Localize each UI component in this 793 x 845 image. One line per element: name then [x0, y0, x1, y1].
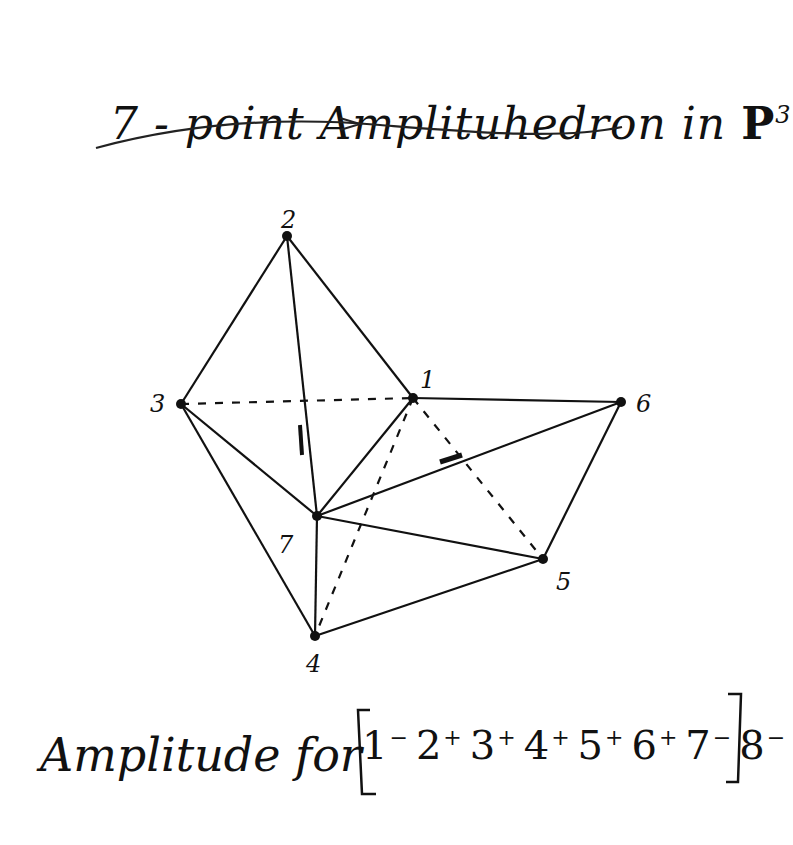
- projective-space-exponent: 3: [775, 101, 791, 129]
- vertex-4: [310, 631, 320, 641]
- particle-number: 8: [739, 722, 764, 768]
- edge-tick-mark: [440, 455, 462, 462]
- helicity-item: 6+: [631, 722, 677, 768]
- vertex-label-4: 4: [305, 650, 321, 678]
- particle-number: 3: [470, 722, 495, 768]
- edge-3-1: [181, 398, 413, 404]
- edge-4-5: [315, 559, 543, 636]
- helicity-item: 8−: [739, 722, 785, 768]
- particle-number: 4: [524, 722, 549, 768]
- helicity-sign: +: [551, 725, 569, 750]
- helicity-item: 7−: [685, 722, 731, 768]
- edge-3-4: [181, 404, 315, 636]
- edge-3-7: [181, 404, 317, 516]
- helicity-sign: −: [767, 725, 785, 750]
- vertex-label-2: 2: [280, 206, 296, 234]
- edge-mark-layer: [300, 425, 462, 462]
- particle-number: 5: [578, 722, 603, 768]
- edge-2-7: [287, 236, 317, 516]
- vertex-label-7: 7: [278, 531, 294, 559]
- helicity-item: 2+: [416, 722, 462, 768]
- vertex-label-1: 1: [420, 366, 435, 394]
- edge-1-5: [413, 398, 543, 559]
- helicity-sign: −: [389, 725, 407, 750]
- edge-7-4: [315, 516, 317, 636]
- helicity-list: 1−2+3+4+5+6+7−8−: [362, 722, 793, 768]
- helicity-sign: +: [443, 725, 461, 750]
- particle-number: 6: [631, 722, 656, 768]
- vertex-1: [408, 393, 418, 403]
- edge-layer: [181, 236, 621, 636]
- helicity-sign: +: [605, 725, 623, 750]
- vertex-label-5: 5: [556, 568, 571, 596]
- edge-tick-mark: [300, 425, 302, 455]
- edge-1-6: [413, 398, 621, 402]
- vertex-label-6: 6: [636, 390, 651, 418]
- edge-2-3: [181, 236, 287, 404]
- edge-1-4: [315, 398, 413, 636]
- amplitude-caption: Amplitude for: [40, 728, 362, 782]
- helicity-item: 3+: [470, 722, 516, 768]
- particle-number: 2: [416, 722, 441, 768]
- vertex-label-3: 3: [150, 390, 165, 418]
- vertex-5: [538, 554, 548, 564]
- edge-7-5: [317, 516, 543, 559]
- edge-2-1: [287, 236, 413, 398]
- vertex-7: [312, 511, 322, 521]
- helicity-sign: −: [713, 725, 731, 750]
- title-underline-arrow: [96, 122, 622, 148]
- helicity-sign: +: [497, 725, 515, 750]
- helicity-item: 1−: [362, 722, 408, 768]
- particle-number: 7: [685, 722, 710, 768]
- helicity-sign: +: [659, 725, 677, 750]
- particle-number: 1: [362, 722, 387, 768]
- vertex-3: [176, 399, 186, 409]
- vertex-6: [616, 397, 626, 407]
- arrowhead-icon: [340, 118, 360, 130]
- helicity-item: 4+: [524, 722, 570, 768]
- helicity-item: 5+: [578, 722, 624, 768]
- edge-6-5: [543, 402, 621, 559]
